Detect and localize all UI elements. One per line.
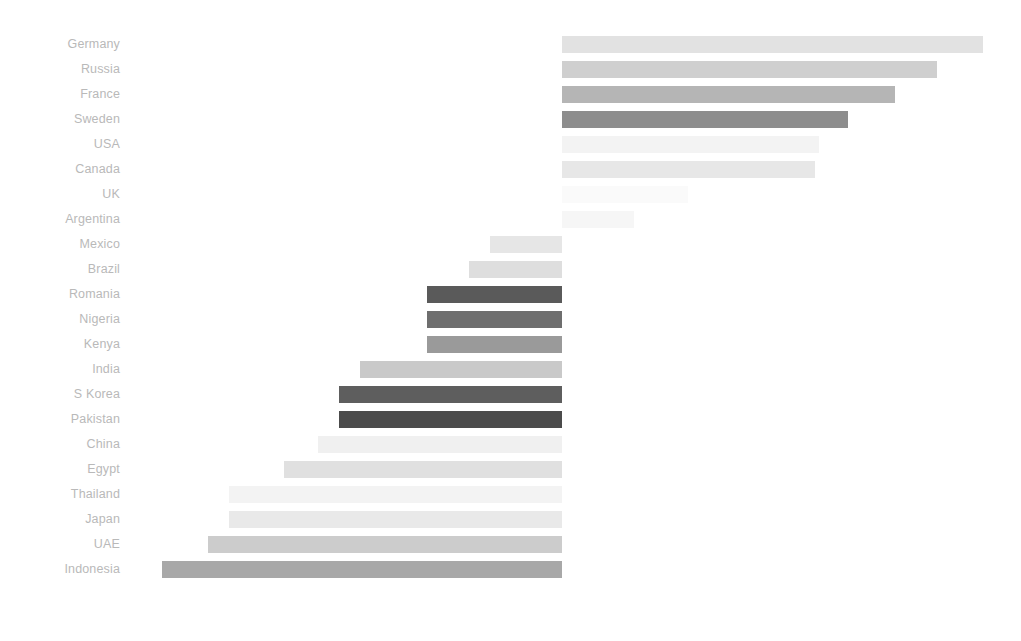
chart-bar [339, 386, 562, 403]
chart-row: India [0, 357, 1021, 382]
chart-bar [469, 261, 562, 278]
category-label: Germany [0, 32, 120, 57]
chart-row: Mexico [0, 232, 1021, 257]
category-label: Romania [0, 282, 120, 307]
chart-bar [427, 286, 562, 303]
chart-bar [339, 411, 562, 428]
chart-row: UAE [0, 532, 1021, 557]
chart-row: China [0, 432, 1021, 457]
chart-axis-legend: Primary Focus on Indirect Communication … [0, 565, 1021, 641]
chart-row: USA [0, 132, 1021, 157]
category-label: Japan [0, 507, 120, 532]
chart-row: UK [0, 182, 1021, 207]
chart-bar [427, 336, 562, 353]
category-label: France [0, 82, 120, 107]
category-label: Russia [0, 57, 120, 82]
chart-row: Nigeria [0, 307, 1021, 332]
chart-row: Canada [0, 157, 1021, 182]
category-label: S Korea [0, 382, 120, 407]
diverging-bar-chart: GermanyRussiaFranceSwedenUSACanadaUKArge… [0, 0, 1021, 565]
category-label: UAE [0, 532, 120, 557]
chart-bar [562, 61, 937, 78]
chart-row: Russia [0, 57, 1021, 82]
chart-bar [490, 236, 562, 253]
category-label: Egypt [0, 457, 120, 482]
category-label: Sweden [0, 107, 120, 132]
category-label: Brazil [0, 257, 120, 282]
chart-bar [562, 36, 983, 53]
chart-bar [284, 461, 562, 478]
chart-bar [208, 536, 562, 553]
category-label: UK [0, 182, 120, 207]
chart-row: Sweden [0, 107, 1021, 132]
category-label: Pakistan [0, 407, 120, 432]
category-label: Nigeria [0, 307, 120, 332]
chart-row: Brazil [0, 257, 1021, 282]
chart-row: Japan [0, 507, 1021, 532]
chart-bar [318, 436, 562, 453]
category-label: Thailand [0, 482, 120, 507]
chart-bar [562, 86, 895, 103]
chart-row: S Korea [0, 382, 1021, 407]
chart-bar [562, 186, 688, 203]
chart-row: Pakistan [0, 407, 1021, 432]
chart-bar [229, 486, 562, 503]
chart-bar [562, 211, 634, 228]
chart-bar [229, 511, 562, 528]
chart-row: Thailand [0, 482, 1021, 507]
chart-page: GermanyRussiaFranceSwedenUSACanadaUKArge… [0, 0, 1021, 641]
chart-bar [562, 111, 848, 128]
category-label: USA [0, 132, 120, 157]
chart-row: France [0, 82, 1021, 107]
chart-bar [562, 161, 815, 178]
chart-bar [427, 311, 562, 328]
category-label: India [0, 357, 120, 382]
category-label: Argentina [0, 207, 120, 232]
chart-bar [562, 136, 819, 153]
chart-row: Romania [0, 282, 1021, 307]
category-label: Kenya [0, 332, 120, 357]
chart-row: Germany [0, 32, 1021, 57]
chart-row: Argentina [0, 207, 1021, 232]
chart-bar [360, 361, 562, 378]
chart-row: Egypt [0, 457, 1021, 482]
category-label: Mexico [0, 232, 120, 257]
category-label: Canada [0, 157, 120, 182]
category-label: China [0, 432, 120, 457]
chart-row: Kenya [0, 332, 1021, 357]
